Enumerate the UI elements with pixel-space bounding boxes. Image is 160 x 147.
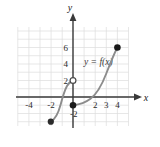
x-tick-neg4: -4	[25, 100, 33, 110]
y-tick-6: 6	[64, 43, 69, 53]
graph-canvas: y x 6 4 2 -2 -4 -2 2 3 4 y = f(x)	[0, 0, 160, 147]
x-tick-neg2: -2	[47, 100, 55, 110]
value-at-zero-closed-marker	[70, 102, 77, 109]
x-tick-2: 2	[93, 100, 98, 110]
function-graph-figure: y x 6 4 2 -2 -4 -2 2 3 4 y = f(x)	[0, 0, 160, 147]
x-axis-arrowhead	[134, 94, 142, 101]
x-tick-3: 3	[104, 100, 109, 110]
right-endpoint-closed-marker	[114, 44, 121, 51]
y-tick-neg2: -2	[70, 109, 78, 119]
left-endpoint-closed-marker	[48, 119, 54, 125]
left-limit-open-marker	[70, 78, 76, 84]
x-tick-4: 4	[115, 100, 120, 110]
y-axis-label: y	[67, 2, 73, 13]
axes	[16, 13, 142, 128]
y-tick-4: 4	[64, 59, 69, 69]
y-axis-arrowhead	[70, 13, 77, 21]
x-axis-label: x	[143, 92, 149, 103]
